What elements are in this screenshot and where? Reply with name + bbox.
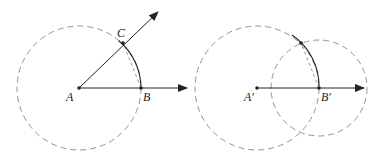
label-c: C — [117, 26, 126, 40]
point-a-prime — [255, 86, 259, 90]
point-a — [77, 86, 81, 90]
label-b-prime: B′ — [321, 90, 331, 104]
right-construction: A′ B′ — [195, 26, 367, 150]
chord-b-prime — [301, 43, 319, 88]
label-b: B — [143, 90, 151, 104]
point-intersection — [299, 41, 303, 45]
left-construction: A B C — [17, 12, 187, 150]
label-a-prime: A′ — [243, 90, 254, 104]
ray-ac — [79, 12, 158, 88]
arc-b-prime — [292, 35, 319, 88]
label-a: A — [65, 90, 74, 104]
chord-bc — [123, 43, 141, 88]
arc-bc — [119, 41, 142, 89]
angle-copy-construction-diagram: A B C A′ B′ — [0, 0, 379, 160]
diagram-svg: A B C A′ B′ — [0, 0, 379, 160]
point-c — [121, 41, 125, 45]
